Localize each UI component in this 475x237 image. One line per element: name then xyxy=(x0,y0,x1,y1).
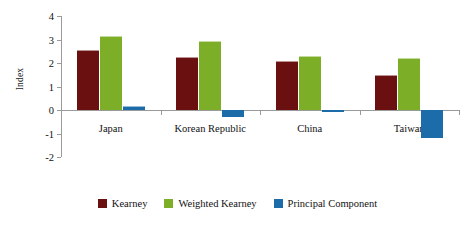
bar xyxy=(176,57,198,110)
bar xyxy=(222,110,244,117)
y-tick-label: 4 xyxy=(49,11,54,22)
x-tick-mark xyxy=(459,110,460,115)
y-tick-label: 1 xyxy=(49,81,54,92)
x-axis-label: Korean Republic xyxy=(175,123,246,134)
bar xyxy=(421,110,443,138)
legend-label: Kearney xyxy=(112,198,148,209)
y-tick-mark xyxy=(57,110,61,111)
y-tick-label: 2 xyxy=(49,58,54,69)
y-tick-mark xyxy=(57,87,61,88)
x-tick-mark xyxy=(260,110,261,115)
y-tick-label: 0 xyxy=(49,105,54,116)
legend-item[interactable]: Principal Component xyxy=(274,198,378,209)
chart-legend: KearneyWeighted KearneyPrincipal Compone… xyxy=(0,198,475,209)
bar xyxy=(276,61,298,110)
bar xyxy=(398,58,420,110)
y-tick-label: 3 xyxy=(49,34,54,45)
x-tick-mark xyxy=(161,110,162,115)
x-tick-mark xyxy=(360,110,361,115)
legend-swatch-icon xyxy=(98,199,107,208)
y-tick-label: -1 xyxy=(45,128,54,139)
y-tick-mark xyxy=(57,63,61,64)
x-axis-label: Japan xyxy=(99,123,123,134)
y-tick-mark xyxy=(57,134,61,135)
x-axis-label: Taiwan xyxy=(394,123,425,134)
legend-label: Weighted Kearney xyxy=(178,198,256,209)
bar-chart: Index 43210-1-2 JapanKorean RepublicChin… xyxy=(0,0,475,237)
y-axis-title: Index xyxy=(15,39,25,119)
y-tick-label: -2 xyxy=(45,152,54,163)
legend-swatch-icon xyxy=(164,199,173,208)
y-tick-mark xyxy=(57,16,61,17)
bar xyxy=(100,36,122,110)
bar xyxy=(322,110,344,112)
bar xyxy=(77,50,99,110)
legend-item[interactable]: Kearney xyxy=(98,198,148,209)
y-tick-mark xyxy=(57,40,61,41)
legend-item[interactable]: Weighted Kearney xyxy=(164,198,256,209)
bar xyxy=(299,56,321,110)
x-axis-label: China xyxy=(297,123,322,134)
bar xyxy=(199,41,221,110)
bar xyxy=(123,106,145,110)
y-tick-mark xyxy=(57,157,61,158)
legend-label: Principal Component xyxy=(288,198,378,209)
bar xyxy=(375,75,397,110)
legend-swatch-icon xyxy=(274,199,283,208)
plot-area: 43210-1-2 JapanKorean RepublicChinaTaiwa… xyxy=(61,16,459,157)
y-axis-line xyxy=(61,16,62,157)
